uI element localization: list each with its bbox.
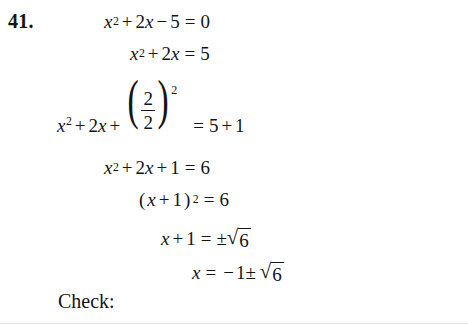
check-label: Check: [58, 290, 115, 313]
fraction-numerator: 2 [141, 89, 155, 108]
constant: 1 [235, 115, 245, 136]
exponent: 2 [66, 115, 72, 128]
equals-sign: = [185, 12, 196, 31]
square-root: √ 6 [260, 262, 284, 284]
plus-operator: + [122, 12, 133, 31]
constant: 5 [170, 12, 180, 31]
variable-x: x [57, 115, 65, 136]
fraction-denominator: 2 [141, 113, 155, 132]
right-paren: ) [184, 190, 190, 209]
left-paren: ( [139, 190, 145, 209]
coefficient: 2 [89, 115, 99, 136]
variable-x: x [161, 229, 169, 248]
equals-sign: = [201, 229, 212, 248]
coefficient: 2 [162, 44, 172, 63]
radicand: 6 [271, 262, 284, 284]
constant: 5 [209, 115, 219, 136]
plus-operator: + [172, 229, 183, 248]
equals-sign: = [205, 263, 216, 282]
radical-icon: √ [260, 261, 272, 282]
plus-operator: + [221, 115, 232, 136]
radicand: 6 [238, 228, 251, 250]
variable-x: x [192, 263, 200, 282]
plus-minus-sign: ± [216, 229, 226, 248]
left-side-terms: x2+2x+ [57, 116, 123, 135]
equation-line-6: x + 1 = ± √ 6 [161, 228, 251, 250]
worksheet-page: 41. x2 + 2x − 5 = 0 x2 + 2x = 5 x2+2x+ ( [0, 0, 468, 324]
problem-number: 41. [8, 10, 34, 33]
parenthesized-fraction: ( 2 2 ) 2 [124, 86, 178, 129]
equals-sign: = [193, 115, 204, 136]
variable-x: x [104, 158, 112, 177]
constant: 1 [236, 263, 246, 282]
right-paren: ) [158, 84, 169, 117]
variable-x: x [145, 12, 153, 31]
coefficient: 2 [136, 158, 146, 177]
equation-line-1: x2 + 2x − 5 = 0 [104, 12, 210, 31]
plus-operator: + [109, 115, 120, 136]
variable-x: x [130, 44, 138, 63]
variable-x: x [147, 190, 155, 209]
variable-x: x [145, 158, 153, 177]
left-paren: ( [128, 84, 139, 117]
variable-x: x [171, 44, 179, 63]
variable-x: x [104, 12, 112, 31]
minus-operator: − [223, 263, 234, 282]
plus-operator: + [122, 158, 133, 177]
equation-line-5: ( x + 1 )2 = 6 [137, 190, 229, 209]
minus-operator: − [156, 12, 167, 31]
equals-sign: = [184, 44, 195, 63]
square-root: √ 6 [227, 228, 251, 250]
plus-operator: + [148, 44, 159, 63]
radical-icon: √ [227, 227, 239, 248]
equals-sign: = [185, 158, 196, 177]
constant: 5 [200, 44, 210, 63]
fraction-two-over-two: 2 2 [141, 89, 155, 132]
equation-line-3: x2+2x+ ( 2 2 ) 2 =5+1 [57, 86, 245, 129]
right-side-terms: =5+1 [188, 116, 244, 135]
constant: 6 [219, 190, 229, 209]
constant: 1 [170, 158, 180, 177]
plus-minus-sign: ± [245, 263, 255, 282]
equation-line-7: x = −1 ± √ 6 [192, 262, 284, 284]
equation-line-2: x2 + 2x = 5 [130, 44, 210, 63]
variable-x: x [98, 115, 106, 136]
constant: 1 [172, 190, 182, 209]
exponent: 2 [171, 84, 177, 96]
coefficient: 2 [136, 12, 146, 31]
plus-operator: + [156, 158, 167, 177]
constant: 1 [186, 229, 196, 248]
equals-sign: = [204, 190, 215, 209]
plus-operator: + [159, 190, 170, 209]
constant: 6 [200, 158, 210, 177]
constant: 0 [200, 12, 210, 31]
plus-operator: + [75, 115, 86, 136]
equation-line-4: x2 + 2x + 1 = 6 [104, 158, 210, 177]
